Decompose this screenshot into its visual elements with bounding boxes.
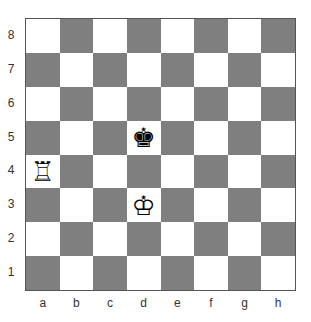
square-a6[interactable]: [26, 87, 60, 121]
square-g1[interactable]: [228, 256, 262, 290]
square-b4[interactable]: [60, 155, 94, 189]
square-h2[interactable]: [261, 222, 295, 256]
square-e4[interactable]: [161, 155, 195, 189]
square-g4[interactable]: [228, 155, 262, 189]
square-b5[interactable]: [60, 121, 94, 155]
rank-label-8: 8: [4, 28, 18, 42]
square-g2[interactable]: [228, 222, 262, 256]
rank-label-7: 7: [4, 62, 18, 76]
square-b7[interactable]: [60, 53, 94, 87]
square-d1[interactable]: [127, 256, 161, 290]
square-a4[interactable]: ♖: [26, 155, 60, 189]
square-a8[interactable]: [26, 19, 60, 53]
square-a5[interactable]: [26, 121, 60, 155]
square-f2[interactable]: [194, 222, 228, 256]
square-b3[interactable]: [60, 188, 94, 222]
rank-label-1: 1: [4, 265, 18, 279]
square-h5[interactable]: [261, 121, 295, 155]
square-a7[interactable]: [26, 53, 60, 87]
square-f6[interactable]: [194, 87, 228, 121]
square-g6[interactable]: [228, 87, 262, 121]
square-h1[interactable]: [261, 256, 295, 290]
square-h7[interactable]: [261, 53, 295, 87]
square-e3[interactable]: [161, 188, 195, 222]
square-b2[interactable]: [60, 222, 94, 256]
square-d7[interactable]: [127, 53, 161, 87]
square-d5[interactable]: ♚: [127, 121, 161, 155]
file-label-f: f: [201, 296, 221, 310]
square-g3[interactable]: [228, 188, 262, 222]
square-b8[interactable]: [60, 19, 94, 53]
file-label-e: e: [167, 296, 187, 310]
square-g5[interactable]: [228, 121, 262, 155]
square-c1[interactable]: [93, 256, 127, 290]
square-g8[interactable]: [228, 19, 262, 53]
square-c7[interactable]: [93, 53, 127, 87]
black-king-icon[interactable]: ♚: [132, 124, 156, 151]
square-f3[interactable]: [194, 188, 228, 222]
square-h8[interactable]: [261, 19, 295, 53]
file-label-c: c: [100, 296, 120, 310]
square-f5[interactable]: [194, 121, 228, 155]
square-c8[interactable]: [93, 19, 127, 53]
square-e7[interactable]: [161, 53, 195, 87]
rank-label-2: 2: [4, 231, 18, 245]
square-d8[interactable]: [127, 19, 161, 53]
rank-label-3: 3: [4, 197, 18, 211]
square-f8[interactable]: [194, 19, 228, 53]
square-c3[interactable]: [93, 188, 127, 222]
square-a3[interactable]: [26, 188, 60, 222]
square-c2[interactable]: [93, 222, 127, 256]
square-a1[interactable]: [26, 256, 60, 290]
square-e1[interactable]: [161, 256, 195, 290]
square-e5[interactable]: [161, 121, 195, 155]
square-h4[interactable]: [261, 155, 295, 189]
square-b6[interactable]: [60, 87, 94, 121]
square-c6[interactable]: [93, 87, 127, 121]
square-f4[interactable]: [194, 155, 228, 189]
rank-label-5: 5: [4, 130, 18, 144]
square-a2[interactable]: [26, 222, 60, 256]
square-d4[interactable]: [127, 155, 161, 189]
square-c4[interactable]: [93, 155, 127, 189]
white-rook-icon[interactable]: ♖: [31, 158, 55, 185]
square-h6[interactable]: [261, 87, 295, 121]
square-e8[interactable]: [161, 19, 195, 53]
rank-label-6: 6: [4, 96, 18, 110]
square-d3[interactable]: ♔: [127, 188, 161, 222]
square-b1[interactable]: [60, 256, 94, 290]
file-label-a: a: [33, 296, 53, 310]
rank-label-4: 4: [4, 163, 18, 177]
file-label-b: b: [66, 296, 86, 310]
white-king-icon[interactable]: ♔: [132, 192, 156, 219]
square-e2[interactable]: [161, 222, 195, 256]
square-d6[interactable]: [127, 87, 161, 121]
square-f7[interactable]: [194, 53, 228, 87]
square-e6[interactable]: [161, 87, 195, 121]
square-f1[interactable]: [194, 256, 228, 290]
square-c5[interactable]: [93, 121, 127, 155]
square-h3[interactable]: [261, 188, 295, 222]
file-label-g: g: [235, 296, 255, 310]
file-label-d: d: [134, 296, 154, 310]
square-g7[interactable]: [228, 53, 262, 87]
file-label-h: h: [268, 296, 288, 310]
chess-board[interactable]: ♚♖♔: [25, 18, 296, 291]
square-d2[interactable]: [127, 222, 161, 256]
